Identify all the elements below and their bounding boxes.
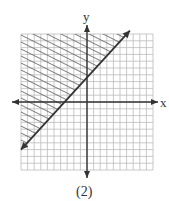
y-axis-label: y [83,9,90,24]
hatch-line [11,0,163,8]
x-axis-arrow-right-icon [151,99,158,105]
graph: y x (2) [0,0,169,201]
figure-caption: (2) [76,184,93,200]
y-axis-arrow-down-icon [84,171,90,178]
hatch-line [11,0,163,1]
x-axis-label: x [160,95,167,110]
x-axis-arrow-left-icon [12,99,19,105]
y-axis-arrow-up-icon [84,25,90,32]
